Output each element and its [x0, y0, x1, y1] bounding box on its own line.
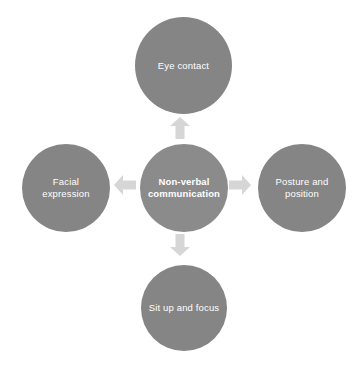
node-eye-contact[interactable]: Eye contact: [135, 17, 232, 114]
node-label-non-verbal-communication: Non-verbal communication: [142, 176, 226, 201]
node-sit-up-and-focus[interactable]: Sit up and focus: [141, 265, 227, 351]
non-verbal-communication-diagram: Eye contact Facial expression Non-verbal…: [0, 0, 360, 370]
node-posture-and-position[interactable]: Posture and position: [258, 144, 346, 232]
node-non-verbal-communication[interactable]: Non-verbal communication: [140, 144, 228, 232]
arrow-up-icon: [170, 117, 190, 139]
node-label-facial-expression: Facial expression: [36, 176, 95, 200]
node-label-posture-and-position: Posture and position: [270, 176, 335, 200]
node-facial-expression[interactable]: Facial expression: [22, 144, 110, 232]
node-label-eye-contact: Eye contact: [152, 60, 215, 72]
arrow-left-icon: [114, 175, 136, 195]
arrow-down-icon: [170, 234, 190, 256]
arrow-right-icon: [229, 175, 251, 195]
node-label-sit-up-and-focus: Sit up and focus: [143, 302, 226, 314]
